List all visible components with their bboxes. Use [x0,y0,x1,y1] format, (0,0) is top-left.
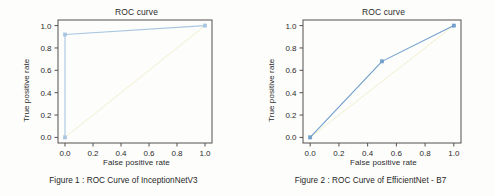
svg-text:0.2: 0.2 [40,111,52,120]
svg-text:0.0: 0.0 [285,133,297,142]
figure-caption: Figure 2 : ROC Curve of EfficientNet - B… [247,176,494,185]
y-axis-label: True positive rate [22,59,31,122]
y-axis-label: True positive rate [267,59,276,122]
svg-text:0.8: 0.8 [420,149,432,158]
svg-text:0.6: 0.6 [40,66,52,75]
figure-2: ROC curve 0.00.20.40.60.81.00.00.20.40.6… [247,0,494,196]
svg-text:0.0: 0.0 [59,149,71,158]
x-axis-label: False positive rate [0,158,247,167]
svg-text:0.4: 0.4 [285,89,297,98]
svg-text:0.4: 0.4 [40,89,52,98]
svg-text:0.6: 0.6 [285,66,297,75]
svg-text:1.0: 1.0 [448,149,460,158]
svg-text:0.8: 0.8 [285,44,297,53]
svg-text:0.6: 0.6 [391,149,403,158]
x-axis-label: False positive rate [247,158,494,167]
svg-text:0.0: 0.0 [305,149,317,158]
svg-text:0.6: 0.6 [143,149,155,158]
svg-text:0.4: 0.4 [362,149,374,158]
svg-text:0.4: 0.4 [115,149,127,158]
svg-text:0.2: 0.2 [87,149,99,158]
svg-text:0.8: 0.8 [171,149,183,158]
svg-text:1.0: 1.0 [199,149,211,158]
svg-text:1.0: 1.0 [40,22,52,31]
svg-text:0.0: 0.0 [40,133,52,142]
svg-text:0.8: 0.8 [40,44,52,53]
figures-page: ROC curve 0.00.20.40.60.81.00.00.20.40.6… [0,0,494,196]
figure-caption: Figure 1 : ROC Curve of InceptionNetV3 [0,176,247,185]
svg-text:0.2: 0.2 [333,149,345,158]
svg-text:0.2: 0.2 [285,111,297,120]
svg-text:1.0: 1.0 [285,22,297,31]
figure-1: ROC curve 0.00.20.40.60.81.00.00.20.40.6… [0,0,247,196]
